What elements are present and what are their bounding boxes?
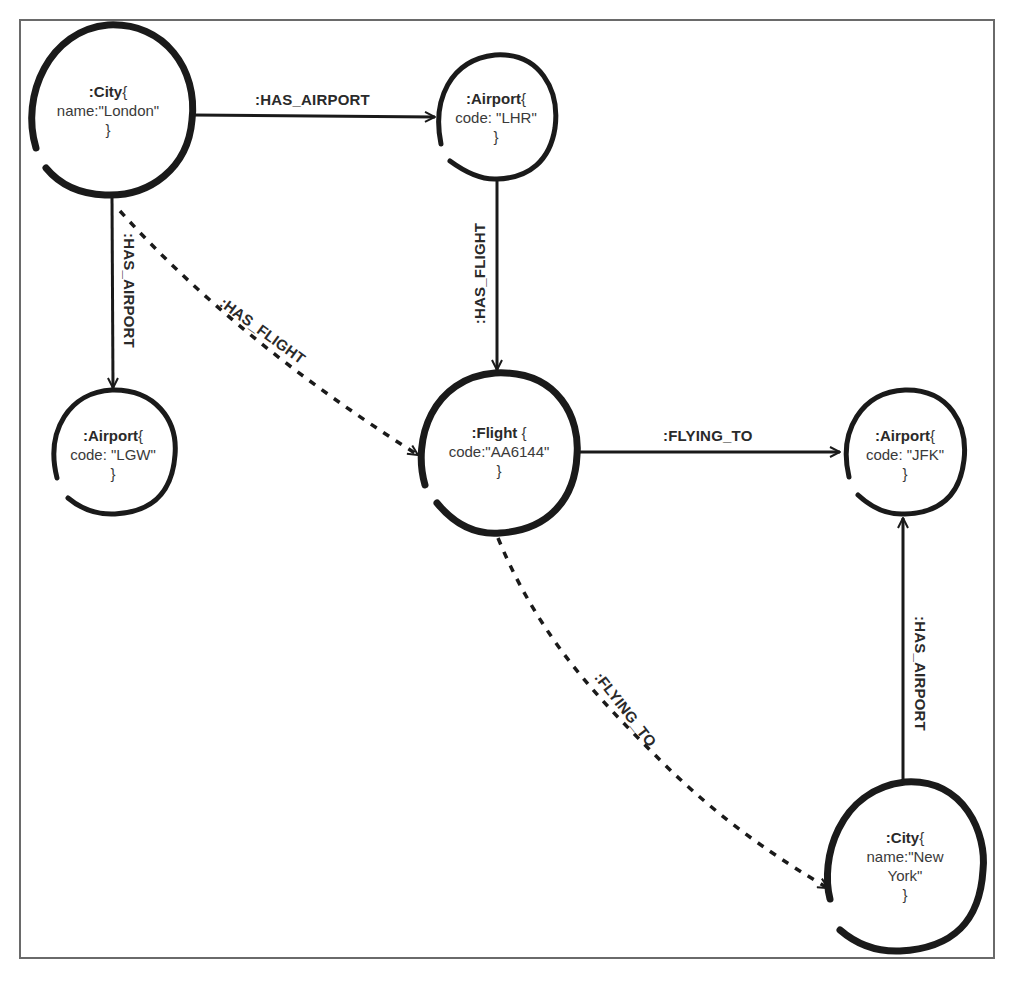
node-jfk[interactable]: :Airport{ code: "JFK" } bbox=[866, 426, 944, 483]
node-open-brace: { bbox=[521, 90, 526, 107]
node-open-brace: { bbox=[517, 424, 526, 441]
node-newyork[interactable]: :City{ name:"New York" } bbox=[860, 828, 950, 904]
edge-label-flight-jfk: :FLYING_TO bbox=[663, 427, 753, 444]
node-property: name:"New York" bbox=[860, 847, 950, 885]
node-label: :City bbox=[886, 829, 919, 846]
node-label: :Flight bbox=[471, 424, 517, 441]
node-close-brace: } bbox=[902, 886, 907, 903]
node-close-brace: } bbox=[105, 121, 110, 138]
node-open-brace: { bbox=[919, 829, 924, 846]
node-london[interactable]: :City{ name:"London" } bbox=[57, 82, 159, 139]
node-close-brace: } bbox=[496, 462, 501, 479]
node-label: :Airport bbox=[83, 427, 138, 444]
node-property: name:"London" bbox=[57, 102, 159, 119]
edge-flight-newyork[interactable] bbox=[498, 538, 828, 888]
node-close-brace: } bbox=[110, 465, 115, 482]
node-close-brace: } bbox=[493, 128, 498, 145]
node-open-brace: { bbox=[122, 83, 127, 100]
node-label: :Airport bbox=[875, 427, 930, 444]
node-property: code: "LGW" bbox=[70, 446, 156, 463]
edge-london-lhr[interactable] bbox=[193, 115, 435, 117]
node-close-brace: } bbox=[902, 465, 907, 482]
edge-label-london-lgw: :HAS_AIRPORT bbox=[121, 233, 138, 348]
node-lgw[interactable]: :Airport{ code: "LGW" } bbox=[70, 426, 156, 483]
edge-london-lgw[interactable] bbox=[112, 197, 113, 388]
node-label: :Airport bbox=[466, 90, 521, 107]
node-open-brace: { bbox=[138, 427, 143, 444]
node-flight[interactable]: :Flight { code:"AA6144" } bbox=[449, 423, 550, 480]
node-label: :City bbox=[89, 83, 122, 100]
edge-label-london-lhr: :HAS_AIRPORT bbox=[255, 91, 370, 108]
node-open-brace: { bbox=[930, 427, 935, 444]
node-lhr[interactable]: :Airport{ code: "LHR" } bbox=[455, 89, 537, 146]
node-property: code:"AA6144" bbox=[449, 443, 550, 460]
node-property: code: "LHR" bbox=[455, 109, 537, 126]
node-property: code: "JFK" bbox=[866, 446, 944, 463]
edge-label-lhr-flight: :HAS_FLIGHT bbox=[471, 223, 488, 324]
edge-label-newyork-jfk: :HAS_AIRPORT bbox=[912, 616, 929, 731]
